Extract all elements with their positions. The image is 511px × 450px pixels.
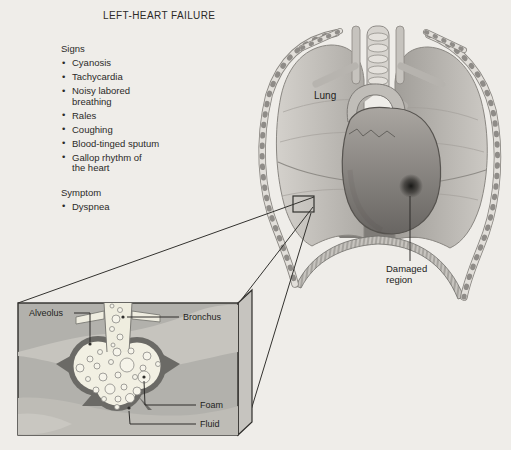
bronchus-label: Bronchus: [183, 312, 221, 323]
damaged-region-label: Damaged region: [386, 264, 440, 285]
figure-left-heart-failure: LEFT-HEART FAILURE Signs Cyanosis Tachyc…: [0, 0, 511, 450]
sign-item: Tachycardia: [61, 72, 179, 83]
sign-item: Cyanosis: [61, 58, 179, 69]
fluid-marker-dot: [127, 406, 130, 409]
symptom-heading: Symptom: [61, 187, 179, 198]
sign-item: Blood-tinged sputum: [61, 139, 179, 150]
right-vessel: [396, 26, 404, 84]
symptom-list: Symptom Dyspnea: [61, 187, 179, 213]
foam-marker-dot: [142, 375, 145, 378]
alveolus-marker-dot: [88, 342, 91, 345]
fluid-label: Fluid: [200, 419, 220, 430]
foam-label: Foam: [200, 400, 223, 411]
lung-label: Lung: [314, 91, 336, 102]
sign-item: Coughing: [61, 125, 179, 136]
sign-item: Rales: [61, 111, 179, 122]
sign-item: Gallop rhythm of the heart: [61, 153, 179, 174]
bronchus-marker-dot: [121, 315, 124, 318]
signs-list: Signs Cyanosis Tachycardia Noisy labored…: [61, 43, 179, 174]
heart: [342, 107, 440, 234]
damaged-region-spot: [399, 174, 423, 198]
left-vessel: [352, 26, 360, 84]
symptom-item: Dyspnea: [61, 202, 179, 213]
figure-title: LEFT-HEART FAILURE: [103, 10, 215, 21]
signs-heading: Signs: [61, 43, 179, 54]
sign-item: Noisy labored breathing: [61, 86, 179, 107]
alveolus-label: Alveolus: [29, 308, 63, 319]
inset-box-side-face: [238, 290, 252, 435]
signs-symptom-panel: Signs Cyanosis Tachycardia Noisy labored…: [61, 43, 179, 216]
